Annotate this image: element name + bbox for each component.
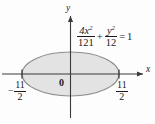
right-vertex-fraction: 112 [116,80,128,103]
equation-term1-exponent: 2 [89,24,92,31]
right-vertex-denominator: 2 [116,92,128,103]
equation-term1-denominator: 121 [77,37,95,48]
equation-equals-sign: = [117,32,127,43]
x-axis-arrowhead [137,71,143,76]
y-axis-label: y [66,4,70,14]
equation-term2-exponent: 2 [112,24,115,31]
left-vertex-label: −112 [8,80,26,103]
origin-label: 0 [59,78,64,88]
left-vertex-denominator: 2 [14,92,26,103]
equation-right-side: 1 [127,32,132,43]
x-axis-label: x [146,65,150,75]
equation-term1-numerator: 4x2 [77,25,95,37]
y-axis-arrowhead [68,16,73,22]
equation-term2-denominator: 12 [105,37,118,48]
equation-term2-fraction: y212 [105,25,118,49]
equation-term2-numerator: y2 [105,25,118,37]
left-vertex-fraction: 112 [14,80,26,103]
equation-plus-operator: + [95,32,105,43]
equation-term1-numerator-base: 4x [79,25,89,36]
equation-annotation: 4x2121+y212=1 [77,25,132,49]
right-vertex-label: 112 [116,80,128,103]
equation-term1-fraction: 4x2121 [77,25,95,49]
ellipse-figure: y x 0 4x2121+y212=1 −112 112 [0,0,155,124]
ellipse-plot [0,0,155,124]
